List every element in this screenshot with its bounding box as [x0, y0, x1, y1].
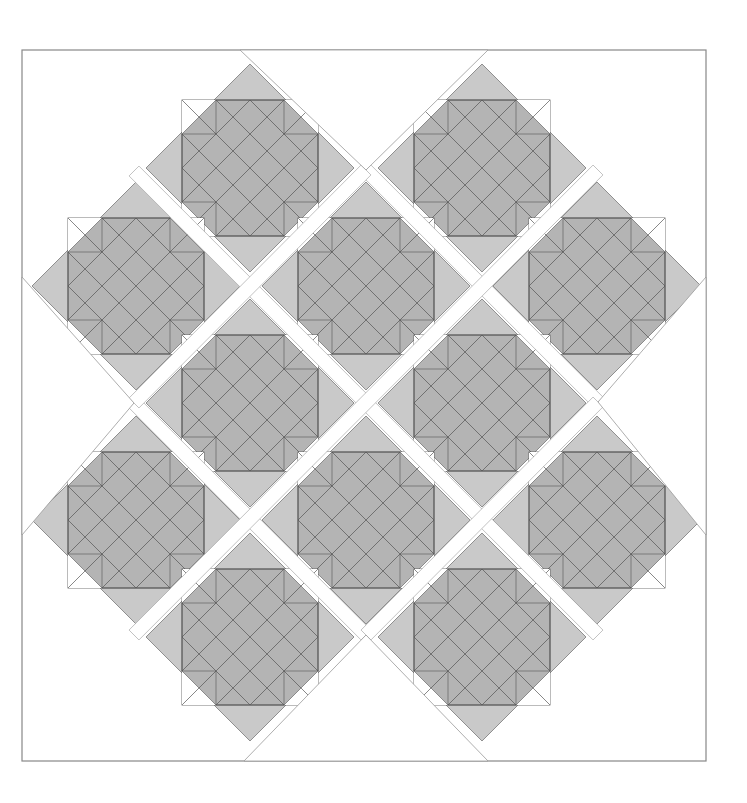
quilt-diagram — [0, 0, 747, 803]
